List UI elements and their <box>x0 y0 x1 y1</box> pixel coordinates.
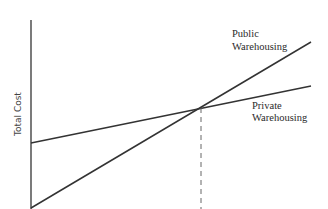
public-warehousing-line <box>31 42 311 208</box>
y-axis-label: Total Cost <box>13 92 23 137</box>
private-label-line1: Private <box>252 100 282 111</box>
public-label-line2: Warehousing <box>232 41 288 52</box>
private-label-line2: Warehousing <box>252 112 308 123</box>
chart: Total Cost Public Warehousing Private Wa… <box>0 0 328 209</box>
public-label-line1: Public <box>232 28 259 39</box>
